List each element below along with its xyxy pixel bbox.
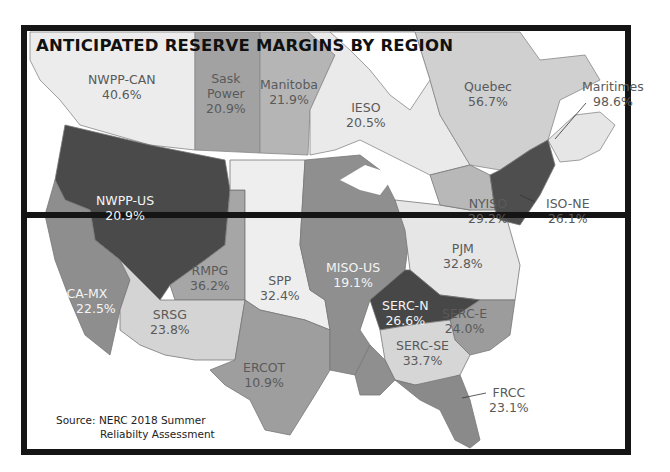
label-manitoba: Manitoba 21.9% (260, 77, 318, 107)
label-nwpp-can: NWPP-CAN 40.6% (88, 72, 156, 102)
label-nyiso: NYISO 29.2% (468, 196, 508, 226)
label-iso-ne: ISO-NE 26.1% (546, 196, 590, 226)
label-serc-se: SERC-SE 33.7% (396, 338, 449, 368)
map-title: ANTICIPATED RESERVE MARGINS BY REGION (36, 36, 453, 55)
label-ca-mx: CA-MX 22.5% (58, 286, 116, 316)
label-ieso: IESO 20.5% (346, 100, 386, 130)
source-note: Source: NERC 2018 Summer Reliabilty Asse… (56, 413, 215, 441)
label-serc-n: SERC-N 26.6% (382, 298, 428, 328)
region-frcc (395, 375, 480, 448)
label-rmpg: RMPG 36.2% (190, 263, 230, 293)
label-miso-us: MISO-US 19.1% (326, 260, 380, 290)
reserve-margin-map (0, 0, 670, 472)
label-sask-power: Sask Power 20.9% (206, 71, 246, 116)
label-maritimes: Maritimes 98.6% (582, 79, 644, 109)
label-spp: SPP 32.4% (260, 273, 300, 303)
label-pjm: PJM 32.8% (443, 241, 483, 271)
label-nwpp-us: NWPP-US 20.9% (96, 193, 154, 223)
label-frcc: FRCC 23.1% (489, 385, 529, 415)
label-serc-e: SERC-E 24.0% (442, 306, 487, 336)
label-ercot: ERCOT 10.9% (243, 360, 285, 390)
label-quebec: Quebec 56.7% (464, 79, 512, 109)
label-srsg: SRSG 23.8% (150, 307, 190, 337)
